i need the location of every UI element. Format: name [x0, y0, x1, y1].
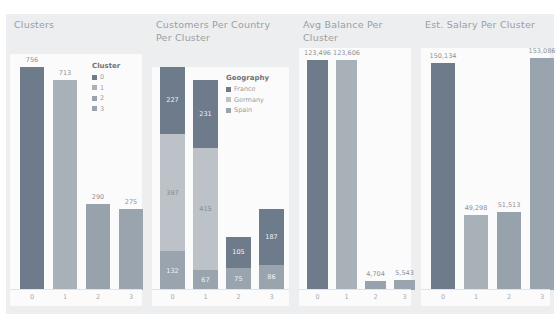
legend-item-1[interactable]: 1 [92, 84, 120, 92]
legend-item-spain[interactable]: Spain [226, 106, 269, 114]
legend-item-label: 2 [100, 94, 104, 102]
bar-segment-value: 132 [166, 267, 178, 275]
legend-swatch-icon [92, 106, 97, 111]
x-axis-tick: 0 [170, 293, 174, 301]
bar-segment-france[interactable]: 227 [160, 67, 185, 134]
legend-item-0[interactable]: 0 [92, 73, 120, 81]
legend-swatch-icon [226, 97, 231, 102]
legend-item-3[interactable]: 3 [92, 105, 120, 113]
legend-item-france[interactable]: France [226, 85, 269, 93]
bar-segment-france[interactable]: 187 [259, 209, 284, 264]
bar-segment-value: 227 [166, 96, 178, 104]
bar-segment-value: 105 [232, 248, 244, 256]
x-axis-tick: 2 [236, 293, 240, 301]
legend-swatch-icon [226, 108, 231, 113]
bar-column[interactable]: 123,496 [307, 60, 328, 290]
panel-title-est-salary: Est. Salary Per Cluster [425, 18, 550, 31]
plot-area-clusters: 756713290275 0123 [10, 54, 142, 306]
bar-value-label: 713 [59, 69, 71, 77]
bar-segment-spain[interactable]: 86 [259, 265, 284, 290]
bar-column[interactable]: 227397132 [160, 67, 185, 290]
legend-swatch-icon [92, 75, 97, 80]
bar-column[interactable]: 23141567 [193, 80, 218, 290]
legend-item-label: 0 [100, 73, 104, 81]
bar[interactable]: 123,606 [336, 60, 357, 290]
legend-item-label: 1 [100, 84, 104, 92]
bar-column[interactable]: 290 [86, 204, 110, 290]
bar-value-label: 275 [125, 198, 137, 206]
legend-item-2[interactable]: 2 [92, 94, 120, 102]
x-axis-tick: 2 [373, 293, 377, 301]
bar[interactable]: 153,086 [530, 58, 554, 290]
bars-avg-balance: 123,496123,6064,7045,543 [299, 48, 411, 290]
dashboard-board: Clusters 756713290275 0123 Cluster 0123 … [6, 14, 554, 314]
legend-clusters[interactable]: Cluster 0123 [92, 62, 120, 115]
bar-segment-value: 231 [199, 110, 211, 118]
bar[interactable]: 713 [53, 80, 77, 290]
bar[interactable]: 49,298 [464, 215, 488, 290]
bar-column[interactable]: 49,298 [464, 215, 488, 290]
bar[interactable]: 10575 [226, 237, 251, 290]
bar-column[interactable]: 153,086 [530, 58, 554, 290]
bar-column[interactable]: 10575 [226, 237, 251, 290]
x-axis-tick: 3 [129, 293, 133, 301]
panel-title-clusters: Clusters [14, 18, 142, 31]
x-axis-tick: 2 [507, 293, 511, 301]
bar-segment-spain[interactable]: 75 [226, 268, 251, 290]
legend-swatch-icon [92, 85, 97, 90]
bar-segment-spain[interactable]: 67 [193, 270, 218, 290]
bar-column[interactable]: 150,134 [431, 63, 455, 290]
bar-value-label: 4,704 [366, 270, 385, 278]
bar[interactable]: 290 [86, 204, 110, 290]
legend-title-geography: Geography [226, 74, 269, 82]
bar-column[interactable]: 51,513 [497, 212, 521, 290]
x-axis-avg-balance: 0123 [299, 289, 411, 306]
bar-segment-germany[interactable]: 397 [160, 134, 185, 251]
legend-title-cluster: Cluster [92, 62, 120, 70]
panel-customers-per-country[interactable]: Customers Per Country Per Cluster 227397… [148, 14, 293, 314]
bar-segment-germany[interactable]: 415 [193, 148, 218, 270]
legend-item-label: 3 [100, 105, 104, 113]
bar-column[interactable]: 18786 [259, 209, 284, 290]
x-axis-tick: 3 [269, 293, 273, 301]
panel-avg-balance[interactable]: Avg Balance Per Cluster 123,496123,6064,… [295, 14, 415, 314]
bar[interactable]: 18786 [259, 209, 284, 290]
bar[interactable]: 123,496 [307, 60, 328, 290]
bar-column[interactable]: 275 [119, 209, 143, 290]
bar-segment-france[interactable]: 105 [226, 237, 251, 268]
bar-column[interactable]: 713 [53, 80, 77, 290]
legend-geography[interactable]: Geography FranceGermanySpain [226, 74, 269, 117]
bar[interactable]: 150,134 [431, 63, 455, 290]
bar-value-label: 5,543 [395, 269, 414, 277]
bar[interactable]: 51,513 [497, 212, 521, 290]
legend-item-label: Germany [234, 96, 264, 104]
bar[interactable]: 275 [119, 209, 143, 290]
bar-value-label: 49,298 [465, 204, 488, 212]
panel-title-avg-balance: Avg Balance Per Cluster [303, 18, 411, 44]
x-axis-tick: 2 [96, 293, 100, 301]
bar-segment-spain[interactable]: 132 [160, 251, 185, 290]
bar-value-label: 123,606 [333, 49, 360, 57]
legend-swatch-icon [226, 87, 231, 92]
panel-est-salary[interactable]: Est. Salary Per Cluster 150,13449,29851,… [417, 14, 554, 314]
x-axis-customers: 0123 [152, 289, 289, 306]
panel-clusters[interactable]: Clusters 756713290275 0123 Cluster 0123 [6, 14, 146, 314]
legend-swatch-icon [92, 96, 97, 101]
legend-item-label: France [234, 85, 256, 93]
plot-area-est-salary: 150,13449,29851,513153,086 0123 [421, 48, 550, 306]
bar-column[interactable]: 123,606 [336, 60, 357, 290]
bar[interactable]: 756 [20, 67, 44, 290]
bars-clusters: 756713290275 [10, 54, 142, 290]
x-axis-tick: 1 [203, 293, 207, 301]
x-axis-tick: 0 [441, 293, 445, 301]
x-axis-clusters: 0123 [10, 289, 142, 306]
bar[interactable]: 23141567 [193, 80, 218, 290]
bar[interactable]: 227397132 [160, 67, 185, 290]
bar-segment-france[interactable]: 231 [193, 80, 218, 148]
bar-segment-value: 415 [199, 205, 211, 213]
legend-item-germany[interactable]: Germany [226, 96, 269, 104]
bars-est-salary: 150,13449,29851,513153,086 [421, 48, 550, 290]
dashboard-canvas: Clusters 756713290275 0123 Cluster 0123 … [0, 0, 560, 336]
bar-value-label: 150,134 [430, 52, 457, 60]
bar-column[interactable]: 756 [20, 67, 44, 290]
